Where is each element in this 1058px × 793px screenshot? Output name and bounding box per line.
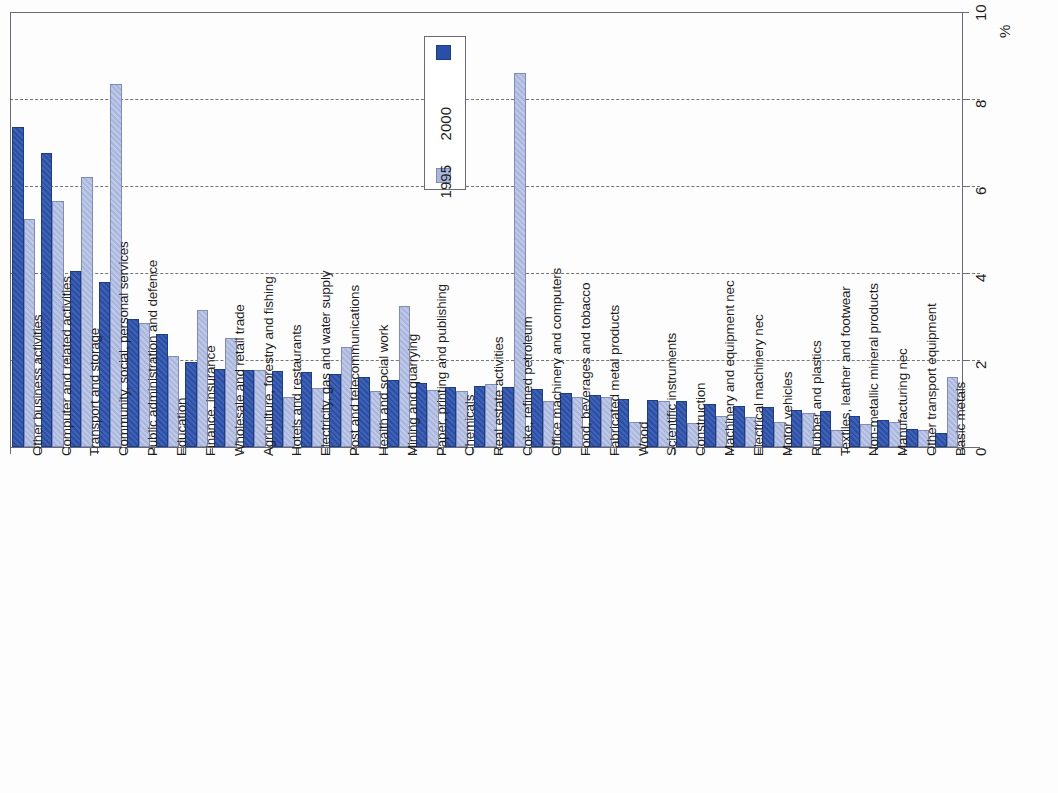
value-tick-10	[962, 12, 969, 13]
category-label: Office machinery and computers	[550, 268, 564, 456]
category-label: Post and telecommunications	[348, 285, 362, 456]
category-label: Other transport equipment	[925, 303, 939, 456]
category-label: Wholesale and retail trade	[233, 304, 247, 456]
category-label: Food, beverages and tobacco	[579, 283, 593, 456]
percent-unit-label: %	[996, 25, 1013, 38]
category-label: Public administration and defence	[146, 260, 160, 456]
value-tick-label-2: 2	[972, 361, 989, 369]
value-tick-0	[962, 447, 969, 448]
category-tick	[10, 447, 11, 454]
value-tick-label-6: 6	[972, 187, 989, 195]
category-label: Electrical machinery nec	[752, 314, 766, 456]
value-tick-label-0: 0	[972, 448, 989, 456]
category-label: Paper, printing and publishing	[435, 284, 449, 456]
category-label: Basic metals	[954, 382, 968, 456]
category-label: Non-metallic mineral products	[867, 283, 881, 456]
category-label: Mining and quarrying	[406, 334, 420, 456]
category-label: Hotels and restaurants	[290, 325, 304, 456]
category-label: Computer and related activities	[60, 276, 74, 456]
value-tick-8	[962, 99, 969, 100]
category-label: Agriculture, forestry and fishing	[262, 277, 276, 457]
bar-chart: Other business activitiesComputer and re…	[0, 0, 1058, 793]
category-label: Finance, insurance	[204, 346, 218, 456]
legend: 2000 1995	[424, 36, 466, 190]
legend-label-1995: 1995	[437, 165, 454, 198]
value-tick-6	[962, 186, 969, 187]
value-tick-label-10: 10	[972, 4, 989, 21]
category-label: Motor vehicles	[781, 372, 795, 456]
category-label: Other business activities	[31, 315, 45, 456]
legend-swatch-2000	[436, 45, 451, 60]
category-label: Education	[175, 398, 189, 456]
category-label: Transport and storage	[88, 328, 102, 456]
value-tick-4	[962, 273, 969, 274]
category-label: Textiles, leather and footwear	[839, 286, 853, 456]
category-label: Machinery and equipment nec	[723, 281, 737, 456]
category-label: Scientific instruments	[665, 333, 679, 456]
category-label: Rubber and plastics	[810, 340, 824, 456]
category-label: Real estate activities	[492, 337, 506, 456]
category-label: Coke, refined petroleum	[521, 317, 535, 456]
value-tick-label-4: 4	[972, 274, 989, 282]
category-label: Chemicals	[463, 395, 477, 456]
category-label: Wood	[637, 422, 651, 456]
category-label: Fabricated metal products	[608, 305, 622, 456]
legend-entry-1995: 1995	[425, 117, 465, 183]
bar-2000	[12, 127, 24, 447]
legend-entry-2000: 2000	[425, 45, 465, 111]
category-label: Electricity, gas and water supply	[319, 271, 333, 456]
category-label: Construction	[694, 383, 708, 456]
category-label: Manufacturing nec	[896, 348, 910, 456]
value-tick-2	[962, 360, 969, 361]
value-tick-label-8: 8	[972, 100, 989, 108]
category-label: Community, social, personal services	[117, 241, 131, 456]
category-label: Health and social work	[377, 325, 391, 456]
